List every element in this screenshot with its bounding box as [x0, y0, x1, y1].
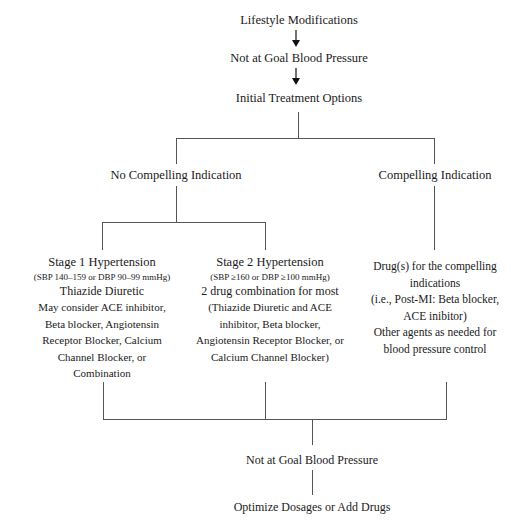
stage-2-line: Angiotensin Receptor Blocker, or	[170, 332, 370, 349]
compelling-line: Other agents as needed for	[364, 324, 506, 341]
node-optimize-dosages: Optimize Dosages or Add Drugs	[192, 501, 432, 513]
connector-line	[298, 112, 299, 138]
connector-line	[103, 419, 447, 420]
node-lifestyle-modifications: Lifestyle Modifications	[199, 14, 399, 27]
stage-2-line: inhibitor, Beta blocker,	[170, 316, 370, 333]
stage-2-line: (Thiazide Diuretic and ACE	[170, 299, 370, 316]
arrow-down-icon	[290, 30, 302, 48]
connector-line	[176, 186, 177, 222]
connector-line	[176, 138, 435, 139]
connector-line	[103, 382, 104, 419]
stage-1-criteria: (SBP 140–159 or DBP 90–99 mmHg)	[12, 271, 192, 283]
connector-line	[265, 222, 266, 250]
compelling-line: Drug(s) for the compelling	[364, 258, 506, 275]
stage-1-line: Receptor Blocker, Calcium	[12, 332, 192, 349]
stage-2-criteria: (SBP ≥160 or DBP ≥100 mmHg)	[170, 271, 370, 283]
connector-line	[312, 419, 313, 445]
connector-line	[434, 138, 435, 164]
compelling-line: indications	[364, 275, 506, 292]
connector-line	[102, 222, 103, 250]
connector-line	[176, 138, 177, 164]
node-not-at-goal-bottom: Not at Goal Blood Pressure	[212, 454, 412, 466]
stage-2-line: 2 drug combination for most	[170, 283, 370, 300]
connector-line	[446, 382, 447, 419]
compelling-line: (i.e., Post-MI: Beta blocker,	[364, 291, 506, 308]
node-stage-1-hypertension: Stage 1 Hypertension (SBP 140–159 or DBP…	[12, 254, 192, 382]
stage-1-line: Thiazide Diuretic	[12, 283, 192, 300]
connector-line	[312, 470, 313, 495]
connector-line	[265, 382, 266, 419]
stage-1-line: May consider ACE inhibitor,	[12, 299, 192, 316]
stage-1-line: Channel Blocker, or	[12, 349, 192, 366]
stage-2-line: Calcium Channel Blocker)	[170, 349, 370, 366]
arrow-down-icon	[290, 68, 302, 86]
node-compelling-indication: Compelling Indication	[370, 169, 500, 182]
connector-line	[434, 186, 435, 250]
node-initial-treatment-options: Initial Treatment Options	[199, 92, 399, 105]
compelling-line: blood pressure control	[364, 341, 506, 358]
stage-1-line: Beta blocker, Angiotensin	[12, 316, 192, 333]
node-stage-2-hypertension: Stage 2 Hypertension (SBP ≥160 or DBP ≥1…	[170, 254, 370, 365]
stage-1-line: Combination	[12, 365, 192, 382]
node-compelling-drugs: Drug(s) for the compelling indications (…	[364, 258, 506, 357]
connector-line	[102, 222, 266, 223]
stage-1-title: Stage 1 Hypertension	[12, 254, 192, 271]
node-no-compelling-indication: No Compelling Indication	[96, 169, 256, 182]
stage-2-title: Stage 2 Hypertension	[170, 254, 370, 271]
compelling-line: ACE inibitor)	[364, 308, 506, 325]
node-not-at-goal-top: Not at Goal Blood Pressure	[199, 52, 399, 65]
